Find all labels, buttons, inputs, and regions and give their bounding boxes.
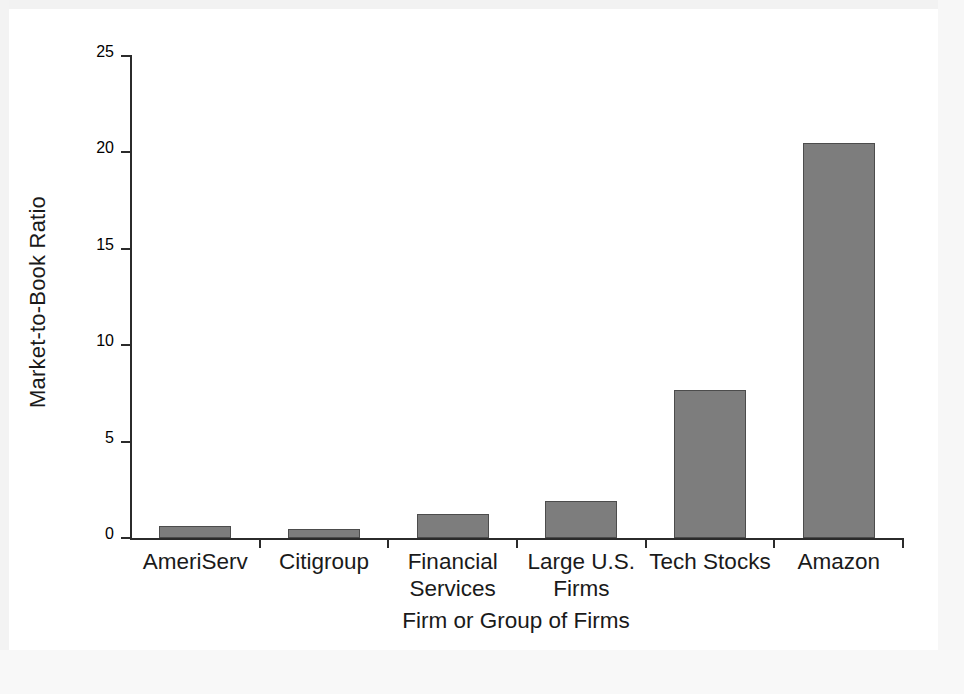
y-axis-tick [121,344,131,346]
x-axis-category-label: Amazon [766,548,911,575]
bar-chart-plot-area: 0510152025 AmeriServCitigroupFinancial S… [0,0,964,694]
y-axis-tick-label: 0 [56,525,114,549]
x-axis-title: Firm or Group of Firms [130,608,902,634]
x-axis-tick [902,538,904,548]
y-axis-tick [121,537,131,539]
y-axis-tick-label: 25 [56,43,114,67]
y-axis-tick-label: 5 [56,429,114,453]
figure-canvas: 0510152025 AmeriServCitigroupFinancial S… [0,0,964,694]
y-axis-tick-label: 15 [56,236,114,260]
bar [288,529,360,538]
y-axis-title: Market-to-Book Ratio [25,122,51,482]
y-axis-line [130,55,132,540]
bar [545,501,617,538]
x-axis-tick [773,538,775,548]
y-axis-tick [121,441,131,443]
x-axis-tick [645,538,647,548]
bar [674,390,746,538]
x-axis-tick [387,538,389,548]
x-axis-tick [516,538,518,548]
x-axis-category-label: AmeriServ [123,548,268,575]
x-axis-tick [259,538,261,548]
y-axis-tick [121,55,131,57]
x-axis-category-label: Large U.S. Firms [509,548,654,603]
y-axis-tick [121,151,131,153]
x-axis-category-label: Citigroup [252,548,397,575]
y-axis-tick [121,248,131,250]
x-axis-category-label: Financial Services [380,548,525,603]
y-axis-tick-label: 20 [56,139,114,163]
bar [417,514,489,538]
x-axis-category-label: Tech Stocks [638,548,783,575]
bar [803,143,875,538]
bar [159,526,231,538]
y-axis-tick-label: 10 [56,332,114,356]
